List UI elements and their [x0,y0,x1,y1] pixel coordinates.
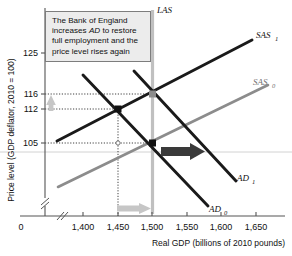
x-tick-label-1550: 1,550 [176,222,199,232]
gdp-increase-arrow [117,203,151,214]
curve-label-ad0-group: AD 0 [208,204,228,216]
curve-label-ad1: AD [236,173,249,183]
point-open-circle [116,141,120,145]
curve-label-ad0-subscript: 0 [224,209,228,216]
curve-label-ad0: AD [208,204,221,214]
curve-label-las: LAS [156,5,173,15]
curve-label-ad1-group: AD 1 [236,173,255,185]
point-ad0-sas1 [115,106,122,113]
chart-container: 125 116 112 105 0 1,400 1,450 1,500 1,55… [0,0,292,256]
curve-ad1 [134,71,236,181]
y-tick-label-112: 112 [24,104,38,114]
curve-label-sas1-subscript: 1 [275,35,278,42]
curve-label-sas1-group: SAS 1 [256,30,278,42]
x-tick-label-1650: 1,650 [245,222,268,232]
callout-text-italic: AD [89,26,100,35]
x-origin-label: 0 [18,222,23,232]
curve-label-sas0-subscript: 0 [272,82,276,89]
y-tick-label-125: 125 [23,48,38,58]
y-tick-label-105: 105 [23,138,38,148]
x-tick-label-1500: 1,500 [141,222,164,232]
ad-shift-arrow [161,143,205,160]
curve-label-ad1-subscript: 1 [252,178,255,185]
curve-label-sas1: SAS [256,30,271,40]
x-axis-title: Real GDP (billions of 2010 pounds) [152,238,285,248]
x-tick-label-1400: 1,400 [72,222,95,232]
curve-label-sas0: SAS [253,77,268,87]
x-tick-label-1600: 1,600 [210,222,233,232]
y-tick-marks [41,53,45,143]
callout-box: The Bank of England increases AD to rest… [45,11,151,62]
x-tick-label-1450: 1,450 [107,222,130,232]
callout-text: The Bank of England increases AD to rest… [52,16,145,57]
y-axis-title: Price level (GDP deflator, 2010 = 100) [6,58,16,201]
point-ad1-sas0 [149,140,156,147]
point-ad1-sas1 [149,91,156,98]
y-tick-label-116: 116 [24,89,38,99]
x-tick-marks [83,212,256,216]
